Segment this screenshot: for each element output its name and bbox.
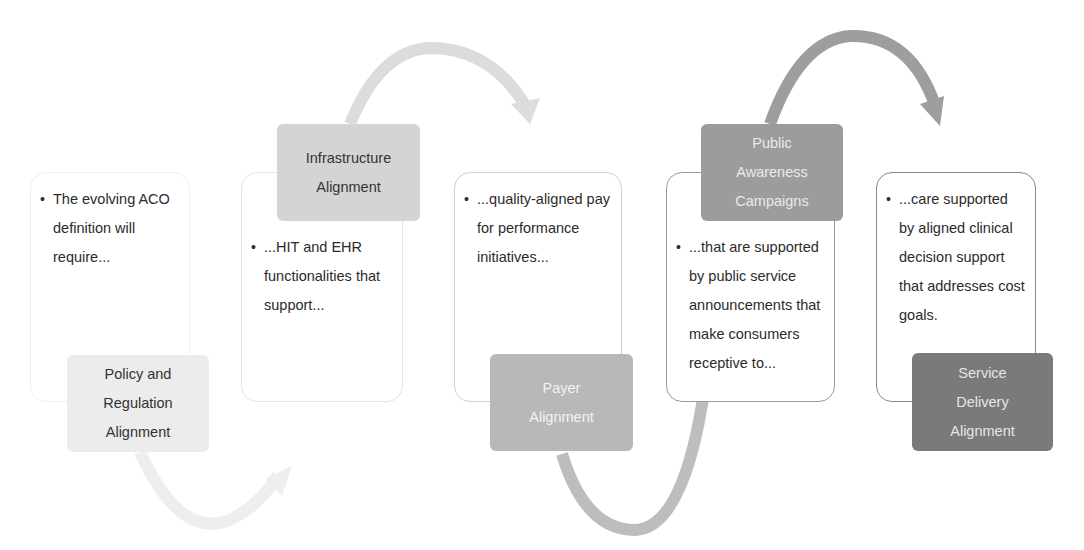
arrow-public-awareness-to-service-delivery <box>770 36 944 126</box>
label-line: Service <box>950 359 1014 388</box>
stage-service-delivery-label: Service Delivery Alignment <box>912 353 1053 451</box>
label-line: Delivery <box>950 388 1014 417</box>
arrow-policy-to-infrastructure <box>140 452 292 524</box>
label-line: Alignment <box>306 173 391 202</box>
arrow-infrastructure-to-payer <box>350 48 540 124</box>
stage-service-delivery-description: ...care supported by aligned clinical de… <box>899 191 1025 323</box>
label-line: Alignment <box>529 403 593 432</box>
bullet-icon: • <box>676 233 681 262</box>
label-line: Alignment <box>950 417 1014 446</box>
label-line: Public <box>735 129 808 158</box>
bullet-icon: • <box>464 185 469 214</box>
label-line: Payer <box>529 374 593 403</box>
bullet-icon: • <box>886 185 891 214</box>
label-line: Alignment <box>103 418 172 447</box>
stage-public-awareness-label: Public Awareness Campaigns <box>701 124 843 221</box>
stage-policy-description: The evolving ACO definition will require… <box>53 191 170 265</box>
label-line: Regulation <box>103 389 172 418</box>
bullet-icon: • <box>251 233 256 262</box>
label-line: Campaigns <box>735 187 808 216</box>
stage-infrastructure-label: Infrastructure Alignment <box>277 124 420 221</box>
stage-infrastructure-description: ...HIT and EHR functionalities that supp… <box>264 239 380 313</box>
stage-public-awareness-description: ...that are supported by public service … <box>689 239 820 371</box>
bullet-icon: • <box>40 185 45 214</box>
label-line: Policy and <box>103 360 172 389</box>
label-line: Awareness <box>735 158 808 187</box>
stage-payer-description: ...quality-aligned pay for performance i… <box>477 191 610 265</box>
stage-payer-label: Payer Alignment <box>490 354 633 451</box>
stage-policy-label: Policy and Regulation Alignment <box>67 355 209 452</box>
label-line: Infrastructure <box>306 144 391 173</box>
